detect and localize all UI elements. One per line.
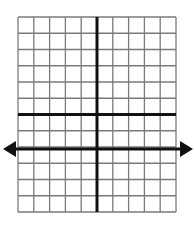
coordinate-grid bbox=[0, 0, 194, 230]
left-arrow-icon bbox=[3, 141, 16, 157]
right-arrow-icon bbox=[180, 141, 193, 157]
